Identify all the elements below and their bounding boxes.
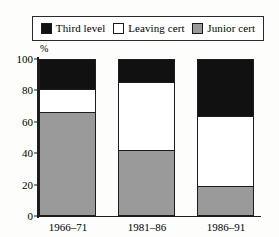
bar-1986-91[interactable] [197,59,254,216]
segment-junior-cert-2 [119,151,174,215]
legend-item-junior-cert: Junior cert [192,23,255,34]
x-axis-line [37,216,261,217]
segment-junior-cert-3 [198,187,253,215]
segment-leaving-cert-1 [40,89,95,112]
white-swatch-icon [113,23,124,34]
x-tick-label-1981-86: 1981–86 [107,221,187,233]
x-tick-label-1986-91: 1986–91 [186,221,266,233]
grey-swatch-icon [192,23,203,34]
black-swatch-icon [41,23,52,34]
segment-third-level-2 [119,60,174,82]
plot-area [38,59,260,216]
segment-leaving-cert-3 [198,116,253,187]
segment-junior-cert-1 [40,113,95,215]
x-tick-label-1966-71: 1966–71 [28,221,108,233]
y-axis-unit-label: % [40,44,48,54]
stacked-bar-chart: Third level Leaving cert Junior cert % 1… [0,0,279,237]
legend-item-third-level: Third level [41,23,106,34]
segment-third-level-3 [198,60,253,116]
bar-1981-86[interactable] [118,59,175,216]
segment-leaving-cert-2 [119,82,174,152]
legend-label-leaving-cert: Leaving cert [128,23,184,34]
segment-third-level-1 [40,60,95,89]
legend-label-junior-cert: Junior cert [207,23,255,34]
legend-label-third-level: Third level [56,23,106,34]
bar-1966-71[interactable] [39,59,96,216]
chart-legend: Third level Leaving cert Junior cert [32,16,264,41]
legend-item-leaving-cert: Leaving cert [113,23,184,34]
